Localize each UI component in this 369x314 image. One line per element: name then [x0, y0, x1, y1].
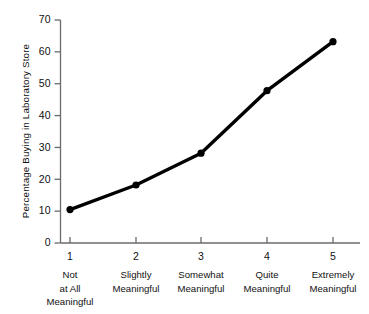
x-category-label-line: at All [60, 283, 81, 294]
y-tick-label: 60 [39, 45, 51, 57]
data-point [132, 181, 139, 188]
y-tick-label: 40 [39, 109, 51, 121]
y-tick-label: 70 [39, 13, 51, 25]
x-category-label-line: Meaningful [113, 283, 160, 294]
y-tick-label: 50 [39, 77, 51, 89]
y-tick-label: 10 [39, 204, 51, 216]
line-chart: 010203040506070 12345 Notat AllMeaningfu… [0, 0, 369, 314]
data-point [263, 87, 270, 94]
chart-figure: 010203040506070 12345 Notat AllMeaningfu… [0, 0, 369, 314]
x-category-label-line: Meaningful [244, 283, 291, 294]
y-tick-label: 30 [39, 141, 51, 153]
y-tick-label: 0 [45, 236, 51, 248]
x-tick-label: 4 [264, 250, 270, 262]
x-category-label-line: Meaningful [310, 283, 357, 294]
x-tick-label: 5 [330, 250, 336, 262]
data-point [329, 38, 336, 45]
y-axis-title: Percentage Buying in Laboratory Store [20, 43, 31, 218]
x-category-label-line: Somewhat [178, 269, 224, 280]
chart-background [0, 0, 369, 314]
x-category-label-line: Extremely [312, 269, 355, 280]
x-category-label-line: Meaningful [178, 283, 225, 294]
x-tick-label: 1 [67, 250, 73, 262]
x-category-label-line: Slightly [121, 269, 152, 280]
data-point [197, 150, 204, 157]
y-tick-label: 20 [39, 173, 51, 185]
x-category-label-line: Meaningful [47, 296, 94, 307]
data-point [66, 206, 73, 213]
x-category-label-line: Quite [256, 269, 279, 280]
x-category-label-line: Not [63, 269, 78, 280]
x-tick-label: 3 [198, 250, 204, 262]
x-tick-label: 2 [133, 250, 139, 262]
